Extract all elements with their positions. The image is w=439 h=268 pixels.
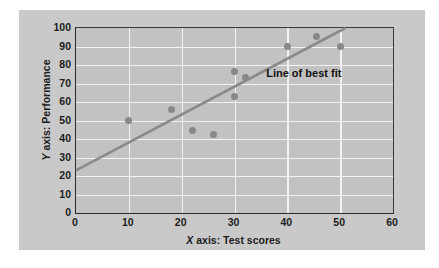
x-axis-tick-label: 10 (110, 217, 146, 228)
y-axis-tick-label: 70 (41, 78, 71, 89)
data-point (168, 106, 175, 113)
x-axis-tick-label: 0 (57, 217, 93, 228)
plot-area: Line of best fit (75, 27, 394, 214)
data-point (189, 127, 196, 134)
y-axis-tick-label: 60 (41, 96, 71, 107)
data-point (231, 68, 238, 75)
data-point (337, 43, 344, 50)
data-point (242, 74, 249, 81)
y-axis-tick-label: 50 (41, 115, 71, 126)
y-axis-tick-label: 100 (41, 22, 71, 33)
x-axis-label: X axis: Test scores (75, 234, 392, 246)
x-axis-tick-label: 30 (216, 217, 252, 228)
y-axis-tick-label: 0 (41, 207, 71, 218)
x-axis-tick-label: 40 (268, 217, 304, 228)
data-point (313, 33, 320, 40)
y-axis-tick-label: 90 (41, 41, 71, 52)
x-axis-tick-labels: 0102030405060 (75, 217, 392, 231)
y-axis-tick-label: 20 (41, 170, 71, 181)
y-axis-tick-label: 10 (41, 189, 71, 200)
y-axis-tick-labels: 0102030405060708090100 (41, 27, 71, 212)
trendline (76, 28, 393, 213)
trendline-label: Line of best fit (266, 67, 341, 79)
y-axis-tick-label: 80 (41, 59, 71, 70)
x-axis-tick-label: 50 (321, 217, 357, 228)
x-axis-tick-label: 20 (163, 217, 199, 228)
data-point (231, 93, 238, 100)
x-axis-tick-label: 60 (374, 217, 410, 228)
x-axis-label-rest: axis: Test scores (193, 234, 280, 246)
trendline-segment (76, 28, 345, 170)
data-point (284, 43, 291, 50)
chart-figure: Y axis: Performance 01020304050607080901… (19, 10, 425, 250)
y-axis-tick-label: 30 (41, 152, 71, 163)
data-point (210, 131, 217, 138)
y-axis-tick-label: 40 (41, 133, 71, 144)
